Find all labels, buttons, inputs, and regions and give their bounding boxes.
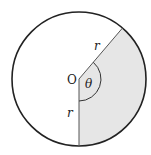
angle-label: θ — [85, 77, 93, 91]
circle-sector-diagram: O θ r r — [0, 0, 151, 155]
radius-label-upper: r — [94, 39, 101, 53]
center-label: O — [67, 73, 77, 87]
radius-label-lower: r — [67, 106, 74, 120]
